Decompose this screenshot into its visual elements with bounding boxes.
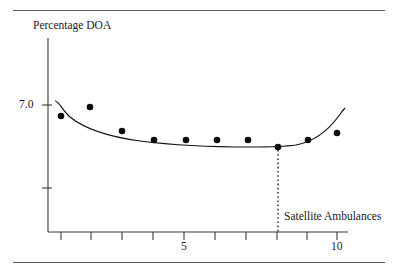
data-point	[58, 113, 65, 120]
data-point	[275, 144, 282, 151]
y-tick-label-7: 7.0	[19, 99, 33, 111]
data-point	[151, 137, 158, 144]
data-point	[245, 137, 252, 144]
x-tick-label-5: 5	[181, 241, 187, 253]
data-point	[87, 104, 94, 111]
data-point	[305, 137, 312, 144]
data-point	[214, 137, 221, 144]
data-point	[334, 130, 341, 137]
scatter-plot-canvas	[0, 0, 400, 272]
y-axis-label: Percentage DOA	[33, 20, 111, 32]
fitted-curve	[55, 101, 345, 147]
data-point	[183, 137, 190, 144]
figure-container: Percentage DOA 7.0 5 10 Satellite Ambula…	[0, 0, 400, 272]
data-point	[119, 128, 126, 135]
x-tick-label-10: 10	[331, 241, 343, 253]
x-axis-label: Satellite Ambulances	[284, 211, 381, 223]
